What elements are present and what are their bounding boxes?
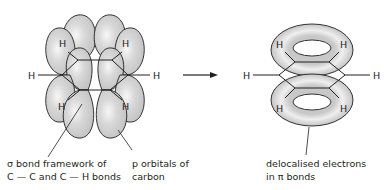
atom-h-top-left-right: H bbox=[276, 39, 283, 50]
atom-h-left-right: H bbox=[243, 70, 250, 81]
atom-h-top-right-right: H bbox=[340, 39, 347, 50]
sigma-label-line2: C — C and C — H bonds bbox=[7, 171, 121, 183]
deloc-leader-line bbox=[306, 127, 309, 155]
p-leader-line bbox=[118, 130, 132, 150]
sigma-label-line1: σ bond framework of bbox=[7, 158, 106, 170]
atom-h-left: H bbox=[28, 70, 35, 81]
atom-h-right: H bbox=[153, 70, 160, 81]
atom-h-bottom-left-right: H bbox=[276, 103, 283, 114]
atom-h-bottom-left: H bbox=[58, 101, 65, 112]
atom-h-bottom-right: H bbox=[122, 101, 129, 112]
atom-h-right-right: H bbox=[373, 70, 380, 81]
deloc-label-line1: delocalised electrons bbox=[266, 158, 366, 170]
p-orbital-label-line1: p orbitals of bbox=[132, 158, 189, 170]
atom-h-bottom-right-right: H bbox=[340, 103, 347, 114]
deloc-label-line2: in π bonds bbox=[266, 171, 315, 183]
atom-h-top-left: H bbox=[59, 38, 66, 49]
reaction-arrow bbox=[183, 72, 218, 78]
atom-h-top-right: H bbox=[122, 38, 129, 49]
p-orbital-label-line2: carbon bbox=[132, 171, 165, 183]
p-orbitals bbox=[46, 15, 145, 138]
